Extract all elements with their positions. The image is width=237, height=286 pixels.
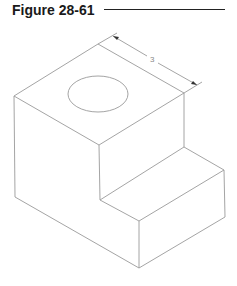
dimension-label: 3 [150, 55, 155, 64]
left-face-edges [14, 96, 139, 268]
step-top-face [100, 147, 224, 221]
top-face [14, 44, 184, 145]
isometric-block-drawing: 3 [0, 0, 237, 286]
hole-ellipse [68, 76, 128, 112]
